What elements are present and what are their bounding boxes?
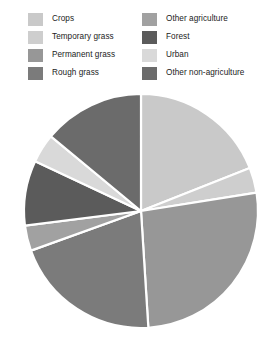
legend-swatch-temporary-grass xyxy=(28,31,43,44)
legend-label-crops: Crops xyxy=(52,14,74,24)
legend-swatch-rough-grass xyxy=(28,67,43,80)
pie-slice-group xyxy=(24,94,258,328)
legend-item-rough-grass: Rough grass xyxy=(4,64,134,82)
legend-item-crops: Crops xyxy=(4,10,134,28)
legend-swatch-permanent-grass xyxy=(28,49,43,62)
legend-label-other-agriculture: Other agriculture xyxy=(166,14,228,24)
legend-item-permanent-grass: Permanent grass xyxy=(4,46,134,64)
legend-swatch-forest xyxy=(142,31,157,44)
legend-item-other-non-agriculture: Other non-agriculture xyxy=(134,64,279,82)
legend-label-permanent-grass: Permanent grass xyxy=(52,50,115,60)
legend-item-other-agriculture: Other agriculture xyxy=(134,10,279,28)
legend-label-other-non-agriculture: Other non-agriculture xyxy=(166,68,244,78)
chart-legend: Crops Other agriculture Temporary grass … xyxy=(0,0,279,84)
legend-swatch-other-agriculture xyxy=(142,13,157,26)
legend-item-temporary-grass: Temporary grass xyxy=(4,28,134,46)
legend-label-rough-grass: Rough grass xyxy=(52,68,99,78)
pie-plot-area xyxy=(0,84,279,338)
legend-label-urban: Urban xyxy=(166,50,189,60)
legend-swatch-crops xyxy=(28,13,43,26)
legend-swatch-urban xyxy=(142,49,157,62)
pie-chart-figure: Crops Other agriculture Temporary grass … xyxy=(0,0,279,338)
pie-svg xyxy=(0,84,279,338)
pie-slice xyxy=(141,193,258,328)
legend-label-temporary-grass: Temporary grass xyxy=(52,32,114,42)
legend-item-forest: Forest xyxy=(134,28,279,46)
legend-item-urban: Urban xyxy=(134,46,279,64)
legend-label-forest: Forest xyxy=(166,32,190,42)
legend-swatch-other-non-agriculture xyxy=(142,67,157,80)
